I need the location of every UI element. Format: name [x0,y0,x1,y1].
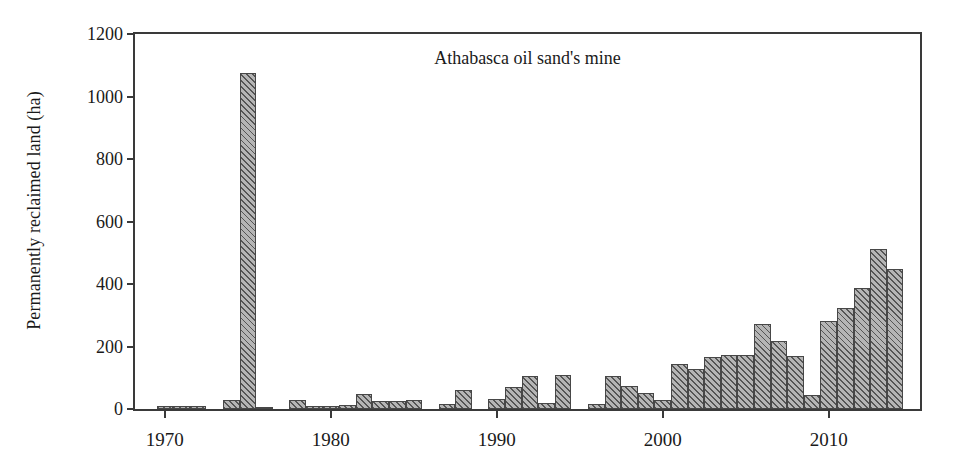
x-axis-tick [496,409,498,418]
bar [240,73,257,409]
figure: Permanently reclaimed land (ha) Athabasc… [0,0,968,462]
y-axis-tick-label: 200 [33,337,123,358]
bar [638,393,655,409]
bar [455,390,472,409]
bar [588,404,605,409]
bar [754,324,771,409]
bar [737,355,754,409]
y-axis-tick-label: 0 [33,399,123,420]
bar [621,386,638,409]
y-axis-tick [127,283,135,285]
y-axis-tick-label: 400 [33,274,123,295]
bar [522,376,539,409]
bar [671,364,688,409]
y-axis-tick [127,221,135,223]
y-axis-tick [127,408,135,410]
bar [787,356,804,409]
bar [870,249,887,409]
bar [804,395,821,409]
x-axis-tick-label: 2000 [613,429,713,451]
bar [555,375,572,409]
x-axis-tick-label: 1980 [281,429,381,451]
bar [372,401,389,409]
bar [190,406,207,409]
bar [406,400,423,409]
bar [306,406,323,409]
bar [820,321,837,409]
bar [837,308,854,409]
x-axis-tick-label: 1970 [115,429,215,451]
bar [688,369,705,409]
y-axis-tick-label: 1000 [33,87,123,108]
x-axis-tick [164,409,166,418]
x-axis-tick [828,409,830,418]
bar [505,387,522,409]
y-axis-tick-label: 600 [33,212,123,233]
bar [173,406,190,409]
bar-series [135,34,920,409]
bar [389,401,406,409]
bar [654,400,671,409]
bar [538,403,555,409]
bar [488,399,505,409]
x-axis-tick [662,409,664,418]
bar [439,404,456,409]
bar [339,405,356,409]
x-axis-tick [330,409,332,418]
y-axis-tick [127,96,135,98]
y-axis-tick-label: 800 [33,149,123,170]
bar [605,376,622,409]
y-axis-tick [127,158,135,160]
bar [854,288,871,409]
bar [223,400,240,409]
bar [704,357,721,409]
bar [887,269,904,409]
x-axis-tick-label: 2010 [779,429,879,451]
x-axis-tick-label: 1990 [447,429,547,451]
bar [721,355,738,409]
bar [771,341,788,409]
y-axis-tick [127,33,135,35]
y-axis-tick-label: 1200 [33,24,123,45]
plot-area: Athabasca oil sand's mine 02004006008001… [133,32,922,411]
bar [356,394,373,409]
bar [289,400,306,409]
bar [256,407,273,410]
y-axis-tick [127,346,135,348]
